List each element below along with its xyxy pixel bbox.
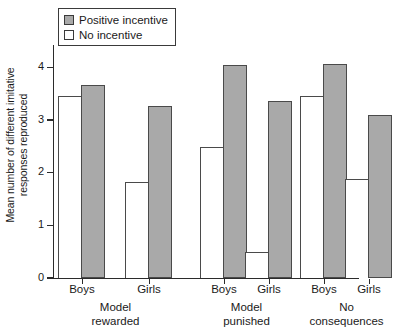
group-label-line1: Model [51,301,181,315]
plot-area [53,49,358,278]
x-label-girls-1: Girls [121,283,177,295]
y-tick-label-3: 3 [30,113,44,125]
group-label-1: Modelrewarded [51,301,181,328]
legend-item-no-incentive: No incentive [64,27,168,42]
bar-no-incentive-boys-2 [200,147,224,278]
legend-label-no-incentive: No incentive [79,29,142,41]
bar-no-incentive-boys-3 [300,96,324,278]
group-label-3: Noconsequences [282,301,396,328]
y-axis-title-line2: responses reproduced [17,67,30,222]
bar-no-incentive-girls-3 [345,179,369,278]
bar-no-incentive-girls-2 [245,252,269,278]
y-tick-label-1: 1 [30,218,44,230]
legend-swatch-white-icon [64,30,74,40]
y-tick-label-4: 4 [30,60,44,72]
group-label-line2: rewarded [51,315,181,329]
bar-positive-incentive-boys-3 [323,64,347,278]
y-tick-label-2: 2 [30,165,44,177]
y-axis-title: Mean number of different imitative respo… [0,0,34,290]
bar-no-incentive-girls-1 [125,182,149,278]
bar-positive-incentive-girls-1 [148,106,172,278]
group-label-line1: No [282,301,396,315]
legend-item-positive-incentive: Positive incentive [64,12,168,27]
legend-label-positive-incentive: Positive incentive [79,14,168,26]
x-label-girls-2: Girls [241,283,297,295]
bar-positive-incentive-boys-2 [223,65,247,278]
x-label-girls-3: Girls [341,283,396,295]
bar-no-incentive-boys-1 [58,96,82,278]
legend: Positive incentive No incentive [58,8,176,46]
bar-positive-incentive-girls-2 [268,101,292,278]
bar-positive-incentive-girls-3 [368,115,392,278]
y-tick-label-0: 0 [30,271,44,283]
legend-swatch-gray-icon [64,15,74,25]
x-label-boys-1: Boys [54,283,110,295]
bar-positive-incentive-boys-1 [81,85,105,278]
y-axis-title-line1: Mean number of different imitative [4,67,16,222]
group-label-line2: consequences [282,315,396,329]
